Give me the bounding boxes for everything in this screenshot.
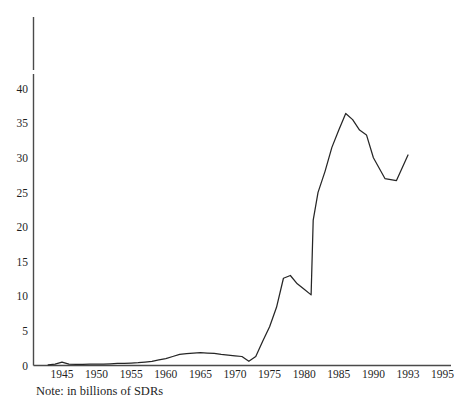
y-tick-labels: 0510152025303540 bbox=[17, 83, 29, 372]
x-tick-label: 1990 bbox=[362, 368, 385, 380]
x-tick-label: 1965 bbox=[189, 368, 212, 380]
y-tick-label: 20 bbox=[17, 221, 29, 233]
y-tick-label: 15 bbox=[17, 256, 29, 268]
x-tick-label: 1955 bbox=[120, 368, 143, 380]
y-tick-label: 10 bbox=[17, 290, 29, 302]
y-tick-label: 25 bbox=[17, 187, 29, 199]
x-tick-label: 1995 bbox=[431, 368, 454, 380]
chart-note: Note: in billions of SDRs bbox=[36, 384, 163, 399]
y-tick-label: 5 bbox=[22, 325, 28, 337]
x-tick-label: 1975 bbox=[258, 368, 281, 380]
x-tick-label: 1950 bbox=[85, 368, 108, 380]
x-tick-label: 1985 bbox=[327, 368, 350, 380]
x-tick-label: 1960 bbox=[154, 368, 177, 380]
x-tick-label: 1980 bbox=[293, 368, 316, 380]
y-tick-label: 30 bbox=[17, 152, 29, 164]
y-tick-label: 40 bbox=[17, 83, 29, 95]
chart-figure: 0510152025303540 19451950195519601965197… bbox=[0, 0, 460, 407]
y-tick-label: 0 bbox=[22, 360, 28, 372]
x-tick-label: 1970 bbox=[224, 368, 247, 380]
x-tick-label: 1993 bbox=[397, 368, 420, 380]
line-chart-plot: 0510152025303540 19451950195519601965197… bbox=[0, 0, 460, 407]
y-tick-label: 35 bbox=[17, 117, 29, 129]
x-tick-labels: 1945195019551960196519701975198019851990… bbox=[51, 368, 455, 380]
data-series-line bbox=[48, 113, 408, 364]
x-tick-label: 1945 bbox=[51, 368, 74, 380]
